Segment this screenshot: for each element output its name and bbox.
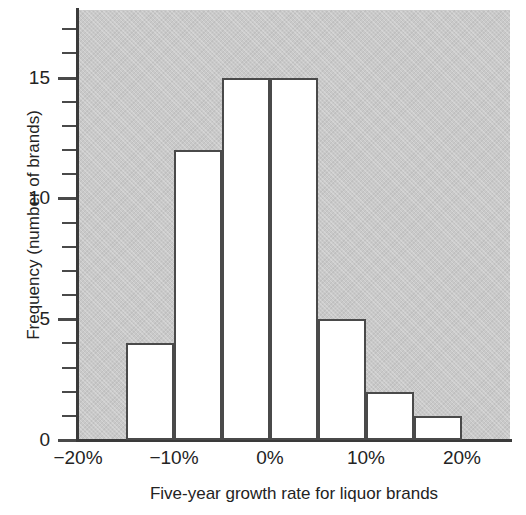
histogram-bar — [414, 416, 462, 440]
y-tick-14 — [62, 101, 76, 103]
histogram-bar — [222, 78, 270, 440]
y-tick-8 — [62, 246, 76, 248]
y-tick-11 — [62, 173, 76, 175]
histogram-bar — [126, 343, 174, 440]
y-tick-9 — [62, 222, 76, 224]
x-tick-label-3: 10% — [321, 448, 411, 467]
y-tick-16 — [62, 52, 76, 54]
histogram-bar — [270, 78, 318, 440]
y-tick-13 — [62, 125, 76, 127]
histogram-bar — [174, 150, 222, 440]
y-tick-3 — [62, 367, 76, 369]
y-axis-line — [76, 8, 79, 442]
y-tick-1 — [62, 415, 76, 417]
y-axis-title: Frequency (number of brands) — [24, 45, 44, 405]
y-tick-5 — [58, 318, 76, 321]
y-tick-6 — [62, 294, 76, 296]
x-tick-label-2: 0% — [225, 448, 315, 467]
y-tick-15 — [58, 77, 76, 80]
y-tick-10 — [58, 197, 76, 200]
x-tick-label-0: −20% — [33, 448, 123, 467]
histogram-bar — [366, 392, 414, 440]
histogram-figure: 051015 −20%−10%0%10%20% Frequency (numbe… — [0, 0, 526, 515]
y-tick-17 — [62, 28, 76, 30]
histogram-bar — [318, 319, 366, 440]
y-tick-12 — [62, 149, 76, 151]
y-tick-7 — [62, 270, 76, 272]
y-tick-4 — [62, 342, 76, 344]
y-tick-label-0: 0 — [16, 430, 50, 449]
x-tick-label-1: −10% — [129, 448, 219, 467]
y-tick-0 — [58, 439, 76, 442]
x-tick-label-4: 20% — [417, 448, 507, 467]
x-axis-title: Five-year growth rate for liquor brands — [78, 484, 510, 504]
y-tick-2 — [62, 391, 76, 393]
